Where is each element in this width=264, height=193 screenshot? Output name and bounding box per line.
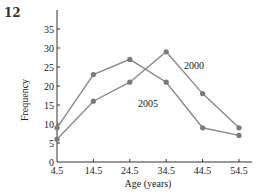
series-lines bbox=[54, 49, 241, 142]
x-tick-label: 24.5 bbox=[121, 165, 139, 176]
data-point-marker bbox=[127, 80, 132, 85]
x-tick-label: 14.5 bbox=[85, 165, 103, 176]
data-point-marker bbox=[54, 137, 59, 142]
data-point-marker bbox=[236, 133, 241, 138]
x-tick-label: 44.5 bbox=[194, 165, 212, 176]
y-tick-label: 5 bbox=[49, 138, 54, 149]
data-point-marker bbox=[200, 125, 205, 130]
data-point-marker bbox=[91, 99, 96, 104]
series-line-2000 bbox=[57, 52, 239, 139]
series-label-2005: 2005 bbox=[138, 98, 158, 109]
line-chart: 051015202530354.514.524.534.544.554.5 Ag… bbox=[0, 0, 264, 193]
data-point-marker bbox=[164, 49, 169, 54]
data-point-marker bbox=[54, 125, 59, 130]
data-point-marker bbox=[127, 57, 132, 62]
y-tick-label: 20 bbox=[44, 81, 54, 92]
y-tick-label: 30 bbox=[44, 43, 54, 54]
data-point-marker bbox=[236, 125, 241, 130]
y-tick-label: 15 bbox=[44, 100, 54, 111]
x-tick-label: 54.5 bbox=[230, 165, 248, 176]
y-tick-label: 35 bbox=[44, 24, 54, 35]
axes: 051015202530354.514.524.534.544.554.5 bbox=[44, 10, 252, 176]
series-label-2000: 2000 bbox=[184, 60, 204, 71]
data-point-marker bbox=[200, 91, 205, 96]
x-tick-label: 4.5 bbox=[51, 165, 64, 176]
data-point-marker bbox=[164, 80, 169, 85]
y-axis-label: Frequency bbox=[19, 79, 30, 121]
y-tick-label: 25 bbox=[44, 62, 54, 73]
x-tick-label: 34.5 bbox=[157, 165, 175, 176]
x-axis-label: Age (years) bbox=[125, 178, 172, 190]
data-point-marker bbox=[91, 72, 96, 77]
y-tick-label: 10 bbox=[44, 119, 54, 130]
